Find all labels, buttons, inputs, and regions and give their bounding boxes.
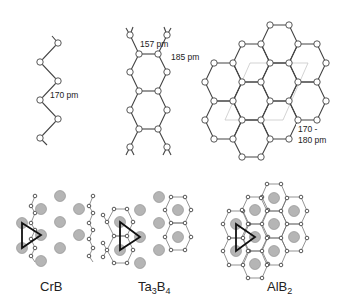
alb2-structure: AlB2 <box>221 182 309 296</box>
crb-structure: CrB <box>17 191 95 295</box>
honeycomb-label-line1: 170 - <box>298 124 318 134</box>
ta3b4-structure: Ta3B4 <box>101 192 193 297</box>
structure-label-alb2: AlB2 <box>267 279 292 296</box>
structure-label-crb: CrB <box>40 279 62 294</box>
boron-substructures-figure: 170 pm 157 pm 185 pm <box>0 0 343 306</box>
honeycomb-label-line2: 180 pm <box>298 135 326 145</box>
double-chain-label-157: 157 pm <box>140 39 168 49</box>
honeycomb-layer: 170 - 180 pm <box>202 22 330 160</box>
structure-label-ta3b4: Ta3B4 <box>138 279 170 296</box>
double-chain: 157 pm 185 pm <box>126 27 199 155</box>
double-chain-label-185: 185 pm <box>171 52 199 62</box>
zigzag-chain: 170 pm <box>37 36 79 145</box>
zigzag-bond-label: 170 pm <box>50 90 78 100</box>
